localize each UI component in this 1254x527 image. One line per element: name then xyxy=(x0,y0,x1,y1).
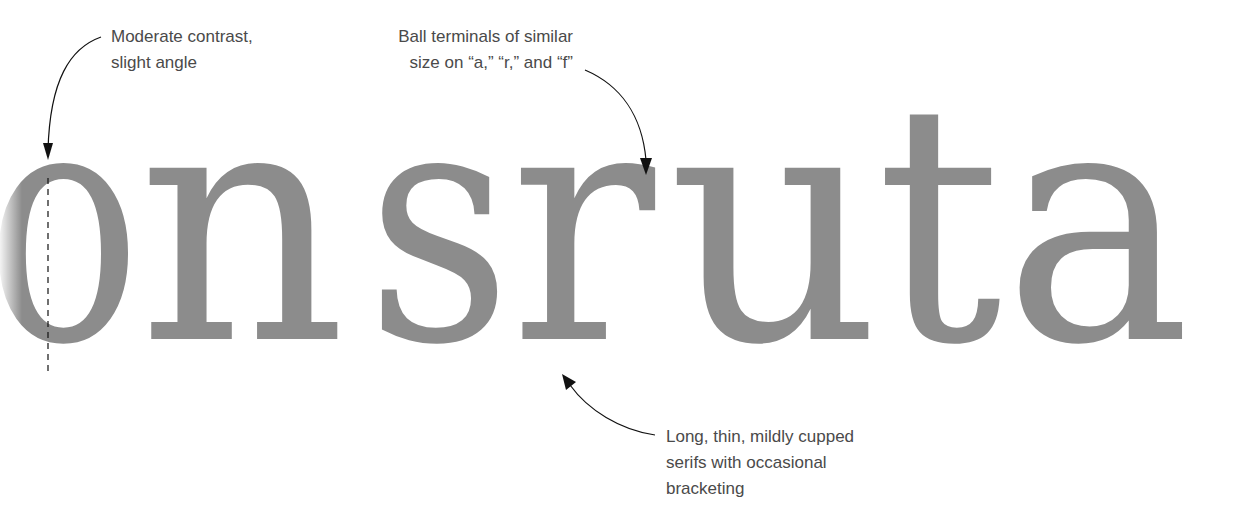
annotation-arrows xyxy=(0,0,1254,527)
arrow-ball-terminals-icon xyxy=(585,70,652,175)
type-specimen: o n s r u t a Moderate contrast, slight … xyxy=(0,0,1254,527)
arrow-serifs-icon xyxy=(562,374,655,435)
arrow-contrast-icon xyxy=(43,37,101,160)
